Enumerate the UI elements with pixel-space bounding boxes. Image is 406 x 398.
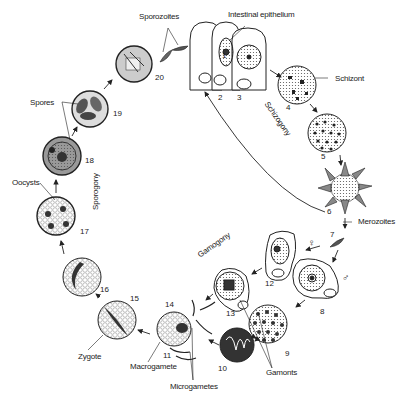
stage-number-4: 4 <box>286 103 290 112</box>
stage-number-3: 3 <box>237 93 241 102</box>
stage-number-17: 17 <box>80 227 89 236</box>
stage-number-18: 18 <box>85 156 94 165</box>
stage-number-20: 20 <box>155 73 164 82</box>
stage-number-5: 5 <box>321 152 325 161</box>
oocyst-stage-18 <box>43 137 81 175</box>
schizont-stage-5 <box>308 114 346 152</box>
stage-number-13: 13 <box>226 309 235 318</box>
label-sporogony: Sporogony <box>91 173 100 210</box>
gamont-stage-8 <box>293 259 338 299</box>
stage-number-19: 19 <box>113 109 122 118</box>
male-symbol: ♂ <box>342 272 349 283</box>
oocyst-stage-17 <box>37 197 75 235</box>
merozoite-stage-7 <box>330 238 344 247</box>
zygote-stage-15 <box>98 301 136 339</box>
life-cycle-diagram <box>0 0 406 398</box>
label-sporozoites: Sporozoites <box>139 12 179 21</box>
stage-number-1: 1 <box>222 51 226 60</box>
oocyst-stage-16 <box>63 258 101 296</box>
label-spores: Spores <box>30 98 54 107</box>
stage-number-11: 11 <box>163 351 171 360</box>
stage-number-16: 16 <box>100 285 109 294</box>
gamont-stage-13 <box>214 268 249 311</box>
stage-number-8: 8 <box>320 307 324 316</box>
stage-number-2: 2 <box>218 93 222 102</box>
label-merozoites: Merozoites <box>358 217 395 226</box>
oocyst-stage-19-spores <box>72 91 108 127</box>
label-macrogamete: Macrogamete <box>130 362 177 371</box>
intestinal-epithelium <box>190 22 266 90</box>
stage-number-6: 6 <box>327 207 331 216</box>
stage-number-14: 14 <box>165 300 174 309</box>
sporozoites <box>160 46 188 62</box>
stage-number-10: 10 <box>218 364 227 373</box>
label-microgametes: Microgametes <box>170 382 218 391</box>
label-oocysts: Oocysts <box>12 178 40 187</box>
label-gamonts: Gamonts <box>266 368 297 377</box>
gamont-stage-12 <box>266 231 296 280</box>
schizont-stage-4 <box>278 66 316 104</box>
stage-number-15: 15 <box>130 294 139 303</box>
oocyst-stage-20-sporulated <box>116 46 152 82</box>
stage-number-9: 9 <box>285 349 289 358</box>
stage-number-12: 12 <box>265 279 274 288</box>
female-symbol: ♀ <box>308 237 315 248</box>
stage-number-7: 7 <box>330 230 334 239</box>
label-intestinal-epithelium: Intestinal epithelium <box>228 10 295 19</box>
label-zygote: Zygote <box>78 352 101 361</box>
label-schizont: Schizont <box>335 74 364 83</box>
gamont-stage-10 <box>220 328 254 362</box>
macrogamete-stage-14 <box>157 312 191 346</box>
